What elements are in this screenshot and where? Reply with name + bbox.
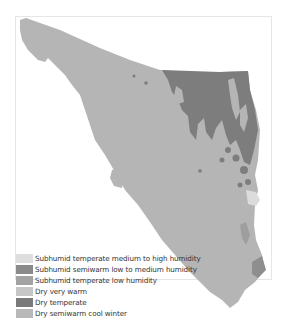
legend-swatch [16,254,33,263]
legend-swatch [16,309,33,318]
patch [220,158,225,163]
legend-label: Subhumid temperate low humidity [35,276,157,285]
legend-item: Dry temperate [16,297,216,308]
legend-item: Dry semiwarm cool winter [16,308,216,319]
patch [144,81,148,85]
patch [245,179,251,185]
patch [225,147,231,153]
patch [198,169,202,173]
map-legend: Subhumid temperate medium to high humidi… [16,253,216,319]
legend-label: Dry very warm [35,287,87,296]
region-subhumid-high [246,190,260,206]
legend-item: Subhumid temperate medium to high humidi… [16,253,216,264]
legend-swatch [16,287,33,296]
legend-label: Subhumid semiwarm low to medium humidity [35,265,197,274]
legend-label: Dry semiwarm cool winter [35,309,127,318]
legend-label: Dry temperate [35,298,87,307]
patch [238,183,243,188]
patch [233,155,240,162]
legend-swatch [16,298,33,307]
patch [240,166,248,174]
patch [133,75,136,78]
legend-label: Subhumid temperate medium to high humidi… [35,254,201,263]
legend-swatch [16,265,33,274]
legend-item: Subhumid semiwarm low to medium humidity [16,264,216,275]
legend-item: Dry very warm [16,286,216,297]
legend-swatch [16,276,33,285]
legend-item: Subhumid temperate low humidity [16,275,216,286]
